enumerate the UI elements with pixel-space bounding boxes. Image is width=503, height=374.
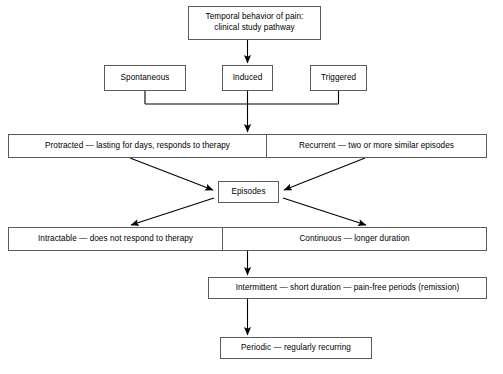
edge-recurrent-to-episodes (284, 158, 365, 190)
node-periodic[interactable]: Periodic — regularly recurring (220, 337, 372, 359)
node-intractable[interactable]: Intractable — does not respond to therap… (9, 228, 223, 250)
node-triggered[interactable]: Triggered (310, 65, 367, 91)
node-periodic-label: Periodic — regularly recurring (241, 343, 351, 354)
node-continuous[interactable]: Continuous — longer duration (223, 228, 486, 250)
node-course-row: Protracted — lasting for days, responds … (8, 134, 487, 158)
edge-protracted-to-episodes (130, 158, 213, 190)
node-root-label: Temporal behavior of pain: clinical stud… (206, 12, 304, 34)
node-protracted[interactable]: Protracted — lasting for days, responds … (9, 135, 267, 157)
node-induced[interactable]: Induced (222, 65, 273, 91)
node-intermittent-label: Intermittent — short duration — pain-fre… (236, 283, 460, 294)
node-episodes[interactable]: Episodes (218, 181, 279, 203)
node-continuous-label: Continuous — longer duration (299, 234, 409, 245)
node-recurrent-label: Recurrent — two or more similar episodes (299, 141, 454, 152)
node-root[interactable]: Temporal behavior of pain: clinical stud… (188, 6, 321, 40)
flowchart-canvas: Temporal behavior of pain: clinical stud… (0, 0, 503, 374)
node-intractable-label: Intractable — does not respond to therap… (38, 234, 193, 245)
node-spontaneous[interactable]: Spontaneous (104, 65, 186, 91)
node-spontaneous-label: Spontaneous (121, 73, 170, 84)
edge-episodes-to-continuous (283, 198, 366, 225)
node-recurrent[interactable]: Recurrent — two or more similar episodes (267, 135, 486, 157)
node-protracted-label: Protracted — lasting for days, responds … (45, 141, 230, 152)
node-triggered-label: Triggered (321, 73, 356, 84)
node-intermittent[interactable]: Intermittent — short duration — pain-fre… (208, 277, 487, 299)
node-induced-label: Induced (233, 73, 263, 84)
node-episodes-label: Episodes (231, 187, 265, 198)
node-response-row: Intractable — does not respond to therap… (8, 227, 487, 251)
edge-episodes-to-intractable (131, 198, 214, 225)
